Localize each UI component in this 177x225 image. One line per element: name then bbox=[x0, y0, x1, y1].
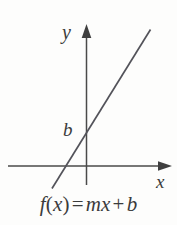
y-axis-label: y bbox=[62, 22, 71, 42]
formula-plus-sign: + bbox=[111, 192, 127, 216]
x-axis-arrowhead-icon bbox=[158, 161, 172, 171]
formula-slope: m bbox=[86, 192, 101, 216]
function-line bbox=[52, 30, 151, 189]
y-axis-arrowhead-icon bbox=[82, 24, 92, 38]
linear-function-figure: y b x f(x)=mx+b bbox=[0, 0, 177, 225]
x-axis-label: x bbox=[156, 172, 164, 191]
formula-argument: x bbox=[53, 192, 63, 216]
y-intercept-label: b bbox=[63, 120, 73, 139]
formula-open-paren: ( bbox=[46, 192, 53, 216]
formula-close-paren: ) bbox=[62, 192, 69, 216]
function-formula: f(x)=mx+b bbox=[0, 194, 177, 215]
formula-intercept: b bbox=[127, 192, 138, 216]
formula-variable: x bbox=[101, 192, 111, 216]
formula-equals-sign: = bbox=[70, 192, 86, 216]
